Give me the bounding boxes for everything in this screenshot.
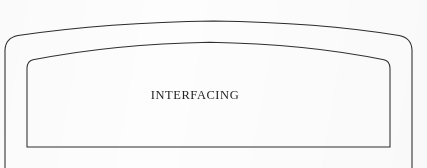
figure-canvas: INTERFACING: [0, 0, 427, 168]
interfacing-label: INTERFACING: [0, 88, 390, 102]
line-drawing-svg: [0, 0, 427, 168]
